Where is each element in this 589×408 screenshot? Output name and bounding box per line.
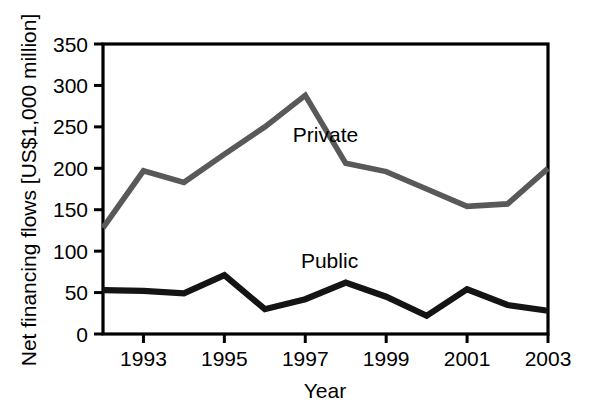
y-tick-label: 300 [53,74,88,97]
y-axis-title: Net financing flows [US$1,000 million] [17,14,40,367]
y-tick-label: 50 [65,281,88,304]
x-tick-label: 1993 [120,347,167,370]
y-tick-label: 350 [53,33,88,56]
series-line-private [103,95,548,228]
y-tick-label: 100 [53,240,88,263]
series-label-private: Private [293,123,358,146]
series-line-public [103,275,548,316]
x-axis-title: Year [304,379,346,402]
series-label-public: Public [301,249,358,272]
x-tick-label: 1999 [363,347,410,370]
y-tick-label: 200 [53,157,88,180]
series-annotation-group: PrivatePublic [293,123,358,272]
chart-figure: 050100150200250300350 199319951997199920… [0,0,589,408]
line-chart: 050100150200250300350 199319951997199920… [0,0,589,408]
y-tick-label: 0 [76,323,88,346]
x-tick-label: 2001 [444,347,491,370]
x-axis-tick-labels: 199319951997199920012003 [120,347,571,370]
x-tick-label: 1995 [201,347,248,370]
y-axis-tick-labels: 050100150200250300350 [53,33,88,346]
x-tick-label: 1997 [282,347,329,370]
y-tick-label: 250 [53,115,88,138]
y-tick-label: 150 [53,198,88,221]
x-tick-label: 2003 [525,347,572,370]
